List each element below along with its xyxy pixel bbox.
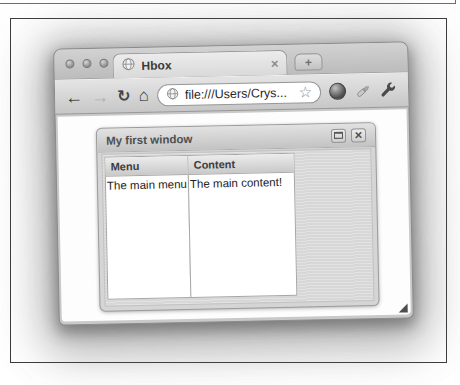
menu-panel: Menu The main menu: [104, 155, 191, 300]
ext-window: My first window × Menu The main menu Con…: [96, 122, 380, 312]
close-icon: ×: [355, 128, 363, 141]
menu-panel-header: Menu: [105, 156, 187, 177]
minimize-window-button[interactable]: [82, 59, 91, 68]
back-button[interactable]: ←: [65, 88, 83, 106]
figure-frame: Hbox × + ← → ↻ ⌂ file:///Us: [10, 18, 447, 363]
close-window-button[interactable]: [65, 59, 74, 68]
reload-button[interactable]: ↻: [117, 88, 131, 104]
resize-grip-icon[interactable]: [399, 303, 408, 312]
ext-window-title: My first window: [106, 130, 326, 147]
browser-toolbar: ← → ↻ ⌂ file:///Users/Crys... ☆: [55, 72, 409, 114]
content-panel-header: Content: [188, 154, 293, 175]
wrench-icon[interactable]: [380, 81, 398, 99]
pencil-icon[interactable]: [354, 82, 372, 100]
traffic-lights: [65, 59, 108, 69]
plus-icon: +: [305, 56, 312, 68]
address-bar[interactable]: file:///Users/Crys... ☆: [157, 81, 322, 106]
page-menu-sphere-icon[interactable]: [329, 83, 346, 100]
content-panel: Content The main content!: [187, 153, 297, 298]
tab-hbox[interactable]: Hbox ×: [112, 50, 287, 79]
ext-close-button[interactable]: ×: [351, 128, 366, 142]
home-button[interactable]: ⌂: [138, 87, 149, 104]
maximize-button[interactable]: [331, 128, 346, 142]
url-text[interactable]: file:///Users/Crys...: [185, 85, 293, 101]
tab-title: Hbox: [141, 56, 265, 73]
maximize-icon: [334, 132, 343, 139]
ext-window-body: Menu The main menu Content The main cont…: [101, 148, 374, 307]
page-rule-corner: [455, 0, 456, 4]
browser-viewport: My first window × Menu The main menu Con…: [58, 109, 411, 321]
menu-panel-body: The main menu: [106, 175, 188, 195]
page-rule-line: [0, 3, 456, 4]
tab-close-icon[interactable]: ×: [271, 57, 279, 70]
new-tab-button[interactable]: +: [294, 53, 322, 71]
browser-window: Hbox × + ← → ↻ ⌂ file:///Us: [53, 41, 414, 325]
bookmark-star-icon[interactable]: ☆: [298, 84, 312, 99]
forward-button[interactable]: →: [91, 87, 109, 105]
favicon-globe-icon: [121, 57, 135, 75]
zoom-window-button[interactable]: [99, 59, 108, 68]
url-globe-icon: [166, 86, 179, 104]
content-panel-body: The main content!: [189, 173, 294, 193]
